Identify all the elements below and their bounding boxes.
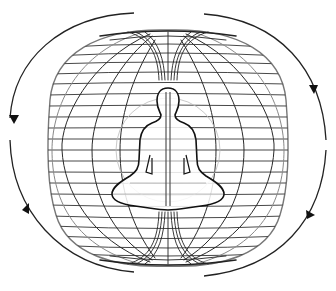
arrow-upper-right [204, 14, 326, 140]
arrow-upper-left [10, 13, 134, 118]
arrow-down-icon [9, 115, 19, 124]
meditating-figure [112, 88, 224, 210]
arrow-down-icon [22, 203, 29, 214]
torus-illustration [0, 0, 336, 291]
